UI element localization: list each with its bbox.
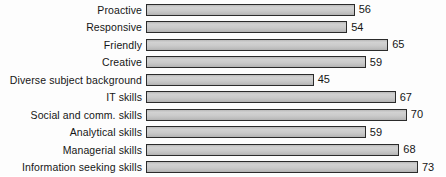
chart-bar-row: Proactive56 <box>0 1 446 19</box>
chart-bar-row: Responsive54 <box>0 19 446 37</box>
category-label: Analytical skills <box>0 126 142 138</box>
bar <box>146 4 355 16</box>
bar-track <box>146 109 407 121</box>
bar-track <box>146 144 399 156</box>
bar-value-label: 56 <box>359 1 371 19</box>
chart-bar-row: IT skills67 <box>0 89 446 107</box>
category-label: Friendly <box>0 39 142 51</box>
bar-track <box>146 126 366 138</box>
chart-bar-row: Analytical skills59 <box>0 124 446 142</box>
bar-value-label: 45 <box>318 71 330 89</box>
chart-bar-row: Diverse subject background45 <box>0 71 446 89</box>
bar <box>146 126 366 138</box>
bar <box>146 21 347 33</box>
bar-value-label: 54 <box>351 19 363 37</box>
category-label: Social and comm. skills <box>0 109 142 121</box>
bar <box>146 74 314 86</box>
chart-bar-row: Information seeking skills73 <box>0 159 446 177</box>
bar-track <box>146 161 418 173</box>
horizontal-bar-chart: Proactive56Responsive54Friendly65Creativ… <box>0 0 446 176</box>
bar <box>146 109 407 121</box>
category-label: Information seeking skills <box>0 161 142 173</box>
bar-track <box>146 56 366 68</box>
bar-value-label: 68 <box>403 141 415 159</box>
bar-value-label: 59 <box>370 124 382 142</box>
category-label: IT skills <box>0 91 142 103</box>
bar-track <box>146 21 347 33</box>
bar-value-label: 73 <box>422 159 434 177</box>
bar-value-label: 59 <box>370 54 382 72</box>
bar <box>146 161 418 173</box>
bar-track <box>146 91 396 103</box>
bar <box>146 91 396 103</box>
bar-track <box>146 4 355 16</box>
bar-value-label: 65 <box>392 36 404 54</box>
bar <box>146 56 366 68</box>
bar <box>146 39 388 51</box>
chart-bar-row: Managerial skills68 <box>0 141 446 159</box>
category-label: Creative <box>0 56 142 68</box>
chart-bar-row: Social and comm. skills70 <box>0 106 446 124</box>
category-label: Diverse subject background <box>0 74 142 86</box>
chart-bar-row: Friendly65 <box>0 36 446 54</box>
bar-value-label: 70 <box>411 106 423 124</box>
bar-value-label: 67 <box>400 89 412 107</box>
category-label: Responsive <box>0 21 142 33</box>
category-label: Managerial skills <box>0 144 142 156</box>
bar-track <box>146 39 388 51</box>
bar <box>146 144 399 156</box>
chart-bar-row: Creative59 <box>0 54 446 72</box>
category-label: Proactive <box>0 4 142 16</box>
bar-track <box>146 74 314 86</box>
